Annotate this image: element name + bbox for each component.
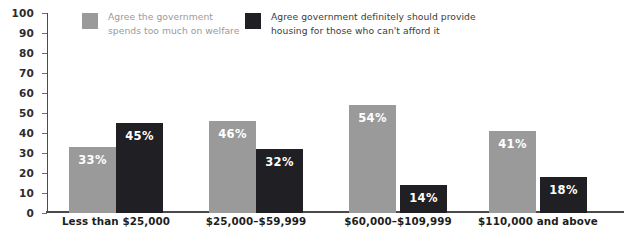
bar-value-label: 54%: [349, 111, 396, 125]
bar-housing-2: 14%: [400, 185, 447, 213]
bar-value-label: 33%: [69, 153, 116, 167]
y-tick-0: 0: [42, 213, 47, 214]
bar-value-label: 14%: [400, 191, 447, 205]
bar-housing-1: 32%: [256, 149, 303, 213]
y-tick-label-30: 30: [19, 147, 34, 159]
category-label-1: $25,000–$59,999: [186, 215, 326, 227]
x-axis-category-labels: Less than $25,000$25,000–$59,999$60,000–…: [47, 215, 625, 235]
bar-value-label: 18%: [540, 183, 587, 197]
y-tick-label-0: 0: [26, 207, 34, 219]
bar-housing-3: 18%: [540, 177, 587, 213]
y-tick-label-20: 20: [19, 167, 34, 179]
y-tick-label-70: 70: [19, 67, 34, 79]
y-tick-label-60: 60: [19, 87, 34, 99]
bar-value-label: 32%: [256, 155, 303, 169]
category-label-2: $60,000–$109,999: [328, 215, 468, 227]
category-label-3: $110,000 and above: [468, 215, 608, 227]
plot-area: 1009080706050403020100 33%45%46%32%54%14…: [47, 13, 625, 213]
y-tick-label-100: 100: [11, 7, 34, 19]
bar-chart: Agree the government spends too much on …: [0, 0, 627, 236]
bar-welfare-2: 54%: [349, 105, 396, 213]
category-label-0: Less than $25,000: [46, 215, 186, 227]
bar-value-label: 45%: [116, 129, 163, 143]
bar-value-label: 46%: [209, 127, 256, 141]
bar-welfare-0: 33%: [69, 147, 116, 213]
bar-value-label: 41%: [489, 137, 536, 151]
bar-housing-0: 45%: [116, 123, 163, 213]
y-tick-label-80: 80: [19, 47, 34, 59]
y-tick-label-10: 10: [19, 187, 34, 199]
bars-layer: 33%45%46%32%54%14%41%18%: [47, 13, 625, 213]
y-tick-label-90: 90: [19, 27, 34, 39]
bar-welfare-1: 46%: [209, 121, 256, 213]
y-tick-label-40: 40: [19, 127, 34, 139]
y-tick-label-50: 50: [19, 107, 34, 119]
bar-welfare-3: 41%: [489, 131, 536, 213]
